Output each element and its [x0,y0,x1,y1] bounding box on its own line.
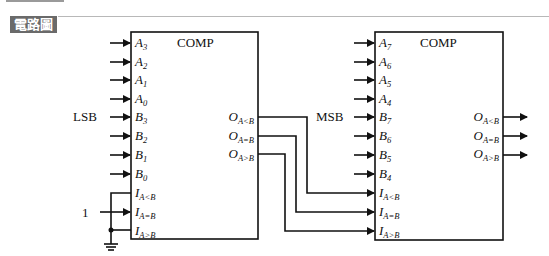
input-pin-label: B3 [135,109,147,126]
input-pin-label: B5 [379,147,391,164]
input-pin-label: B0 [135,166,148,183]
input-pin-label: A6 [378,54,392,71]
left-output-pins: OA<BOA=BOA>B [228,109,254,163]
input-pin-label: IA<B [378,185,399,202]
input-pin-label: IA<B [134,185,155,202]
input-pin-label: IA=B [134,204,155,221]
input-pin-label: IA>B [134,223,155,240]
input-pin-label: A4 [378,91,392,108]
input-pin-label: IA>B [378,223,399,240]
input-pin-label: B1 [135,147,147,164]
right-output-arrows [503,117,527,155]
ground-wiring [104,193,131,250]
right-output-pins: OA<BOA=BOA>B [473,109,499,163]
block-title: COMP [177,35,214,50]
left-input-arrows [100,43,130,212]
input-pin-label: B2 [135,128,148,145]
right-input-pins: A7A6A5A4B7B6B5B4IA<BIA=BIA>B [378,35,399,240]
right-input-arrows [354,43,374,174]
output-pin-label: OA<B [228,109,254,126]
input-pin-label: B6 [379,128,392,145]
input-pin-label: A5 [378,72,391,89]
output-pin-label: OA<B [473,109,499,126]
left-input-pins: A3A2A1A0B3B2B1B0IA<BIA=BIA>B [134,35,155,240]
lsb-label: LSB [73,109,97,124]
input-pin-label: A0 [134,91,148,108]
input-pin-label: B4 [379,166,392,183]
msb-label: MSB [316,109,344,124]
const-one-label: 1 [82,205,89,220]
input-pin-label: A7 [378,35,392,52]
output-pin-label: OA>B [228,146,254,163]
output-pin-label: OA=B [228,128,254,145]
input-pin-label: A2 [134,54,148,71]
junction-dot [109,228,114,233]
input-pin-label: IA=B [378,204,399,221]
input-pin-label: A1 [134,72,147,89]
block-title: COMP [420,35,457,50]
input-pin-label: A3 [134,35,147,52]
input-pin-label: B7 [379,109,392,126]
circuit-diagram: COMP LSB 1 A3A2A1A0B3B2B1B0IA<BIA=BIA>B … [0,0,549,256]
output-pin-label: OA>B [473,146,499,163]
output-pin-label: OA=B [473,128,499,145]
